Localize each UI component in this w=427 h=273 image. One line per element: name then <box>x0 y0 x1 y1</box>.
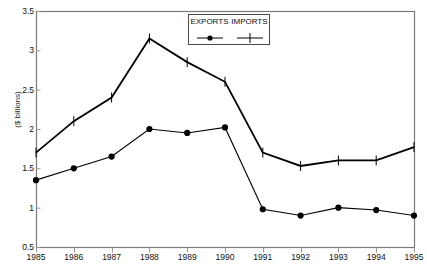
data-point-exports <box>260 206 266 212</box>
y-tick-label: 0.5 <box>8 243 34 252</box>
line-chart: ($ billions) 0.511.522.533.5 19851986198… <box>0 0 427 273</box>
series-line-imports <box>36 39 414 166</box>
y-tick-label: 3 <box>8 46 34 55</box>
x-tick-label: 1990 <box>205 253 245 262</box>
data-point-exports <box>335 205 341 211</box>
legend-labels: EXPORTS IMPORTS <box>189 17 269 26</box>
data-point-exports <box>71 165 77 171</box>
x-tick-label: 1987 <box>92 253 132 262</box>
legend-label-imports: IMPORTS <box>231 17 267 26</box>
series-line-exports <box>36 127 414 215</box>
data-point-exports <box>373 207 379 213</box>
x-tick-label: 1985 <box>16 253 56 262</box>
x-tick-label: 1995 <box>394 253 427 262</box>
legend-keys <box>189 32 269 44</box>
data-point-exports <box>411 212 417 218</box>
legend: EXPORTS IMPORTS <box>188 14 270 45</box>
x-tick-label: 1986 <box>54 253 94 262</box>
y-tick-label: 2 <box>8 125 34 134</box>
x-tick-label: 1988 <box>129 253 169 262</box>
data-point-exports <box>184 130 190 136</box>
x-tick-label: 1992 <box>281 253 321 262</box>
y-axis-tick-labels: 0.511.522.533.5 <box>0 0 34 273</box>
x-tick-label: 1993 <box>318 253 358 262</box>
x-tick-label: 1989 <box>167 253 207 262</box>
data-point-exports <box>222 124 228 130</box>
data-point-exports <box>109 153 115 159</box>
x-tick-label: 1994 <box>356 253 396 262</box>
legend-key-swatches <box>189 32 271 44</box>
data-point-exports <box>146 126 152 132</box>
y-tick-label: 3.5 <box>8 7 34 16</box>
exports-marker-icon <box>207 35 212 40</box>
y-tick-label: 1.5 <box>8 164 34 173</box>
y-tick-label: 2.5 <box>8 86 34 95</box>
data-point-exports <box>298 212 304 218</box>
x-tick-label: 1991 <box>243 253 283 262</box>
y-tick-label: 1 <box>8 204 34 213</box>
legend-label-exports: EXPORTS <box>190 17 228 26</box>
